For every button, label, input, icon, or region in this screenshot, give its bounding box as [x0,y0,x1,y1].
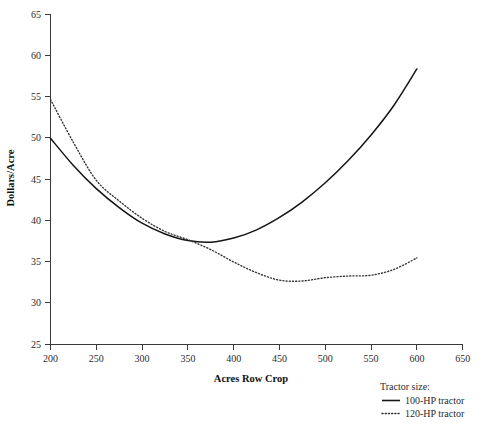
y-tick-label: 30 [31,297,41,308]
x-tick-label: 200 [43,353,58,364]
x-tick-label: 350 [180,353,195,364]
x-tick-label: 550 [364,353,379,364]
x-tick-label: 600 [409,353,424,364]
y-tick-label: 65 [31,9,41,20]
x-tick-label: 300 [135,353,150,364]
x-axis-ticks [51,345,463,351]
y-tick-label: 45 [31,174,41,185]
line-chart: 65 60 55 50 45 40 35 30 25 200 250 [0,0,481,425]
x-axis-tick-labels: 200 250 300 350 400 450 500 550 600 650 [43,353,470,364]
x-tick-label: 500 [318,353,333,364]
y-tick-label: 55 [31,91,41,102]
legend-label-120hp: 120-HP tractor [405,408,465,419]
series-line-120hp [51,99,417,281]
legend-title: Tractor size: [380,381,430,392]
y-tick-label: 60 [31,50,41,61]
y-tick-label: 50 [31,132,41,143]
y-tick-label: 40 [31,215,41,226]
chart-legend: Tractor size: 100-HP tractor 120-HP trac… [380,381,465,419]
y-axis-title: Dollars/Acre [5,149,16,206]
y-tick-label: 25 [31,339,41,350]
legend-label-100hp: 100-HP tractor [405,395,465,406]
x-tick-label: 400 [226,353,241,364]
y-axis-ticks [45,15,51,345]
chart-container: 65 60 55 50 45 40 35 30 25 200 250 [0,0,481,425]
x-axis-title: Acres Row Crop [214,373,288,384]
y-tick-label: 35 [31,256,41,267]
y-axis-tick-labels: 65 60 55 50 45 40 35 30 25 [31,9,41,350]
x-tick-label: 650 [455,353,470,364]
x-tick-label: 450 [272,353,287,364]
x-tick-label: 250 [89,353,104,364]
series-line-100hp [51,69,417,242]
